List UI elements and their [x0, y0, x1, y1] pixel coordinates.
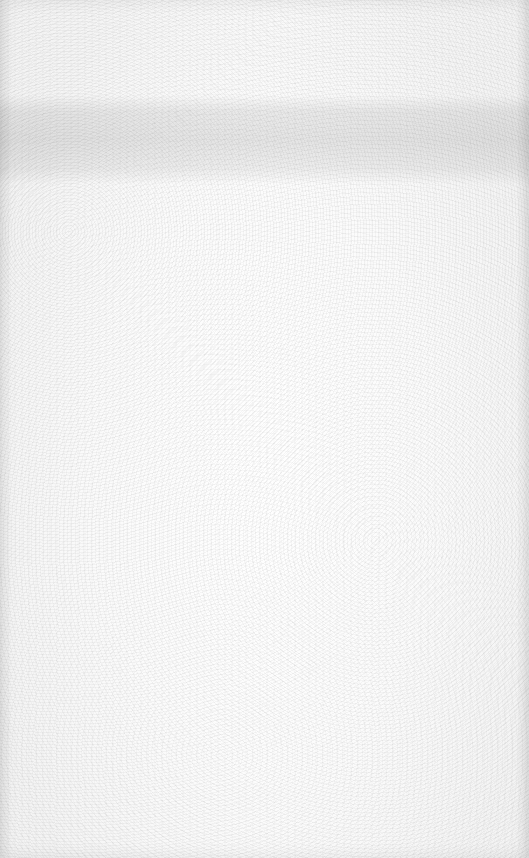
blank-paper-page [0, 0, 529, 858]
paper-grain-texture [0, 0, 529, 858]
page-edge-shadow [0, 0, 529, 858]
scan-shadow-band [0, 95, 529, 185]
